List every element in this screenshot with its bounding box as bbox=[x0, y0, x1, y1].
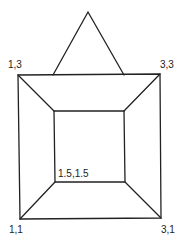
diagonal-top-right bbox=[124, 74, 160, 111]
diagonal-bottom-right bbox=[125, 182, 161, 218]
diagram-canvas: 1,3 3,3 1,1 3,1 1.5,1.5 bbox=[0, 0, 190, 242]
label-outer-bottom-right: 3,1 bbox=[161, 224, 175, 235]
triangle-roof bbox=[53, 12, 124, 75]
label-outer-top-right: 3,3 bbox=[160, 59, 174, 70]
label-outer-top-left: 1,3 bbox=[8, 59, 22, 70]
label-inner-bottom-left: 1.5,1.5 bbox=[58, 168, 89, 179]
label-outer-bottom-left: 1,1 bbox=[9, 224, 23, 235]
diagonal-top-left bbox=[18, 75, 54, 111]
diagonal-bottom-left bbox=[20, 182, 55, 219]
